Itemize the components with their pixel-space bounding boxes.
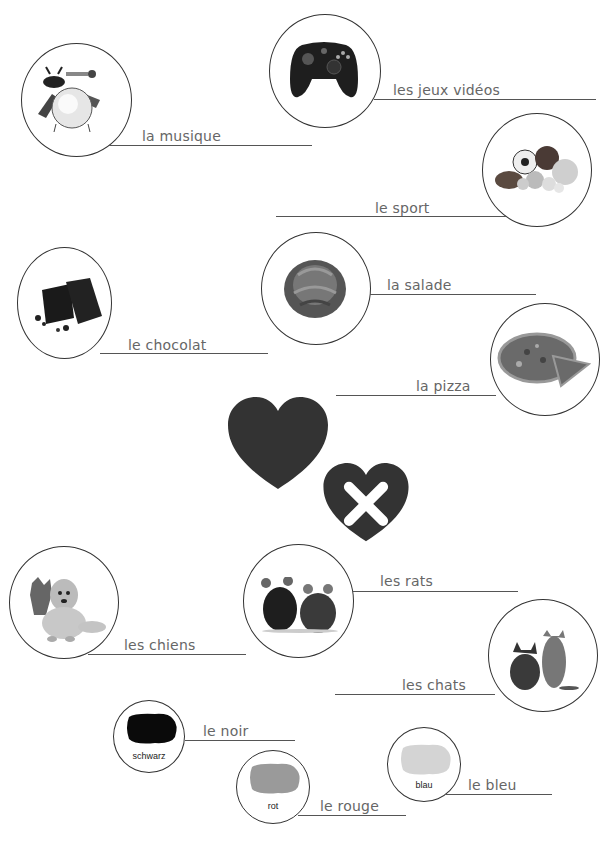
- answer-line-sport: [276, 216, 506, 217]
- picture-circle-chocolat: [17, 247, 112, 359]
- word-pizza: la pizza: [416, 378, 471, 394]
- dogs-icon: [26, 575, 106, 643]
- heart-crossed-icon: [323, 463, 409, 543]
- word-chats: les chats: [402, 677, 466, 693]
- word-rouge: le rouge: [320, 798, 379, 814]
- answer-line-pizza: [336, 395, 496, 396]
- answer-line-rats: [353, 591, 518, 592]
- picture-circle-jeux-videos: [269, 14, 381, 128]
- music-instruments-icon: [36, 64, 116, 134]
- answer-line-chocolat: [100, 353, 268, 354]
- answer-line-noir: [185, 740, 295, 741]
- color-label-rot: rot: [243, 801, 303, 811]
- word-chiens: les chiens: [124, 637, 196, 653]
- picture-circle-chiens: [9, 546, 119, 659]
- answer-line-jeux-videos: [374, 99, 596, 100]
- word-salade: la salade: [387, 277, 452, 293]
- lettuce-icon: [280, 255, 350, 321]
- color-circle-bleu: blau: [387, 727, 461, 802]
- red-swatch: [248, 763, 302, 795]
- word-noir: le noir: [203, 723, 248, 739]
- heart-icon: [228, 397, 328, 491]
- answer-line-rouge: [298, 815, 406, 816]
- color-circle-rouge: rot: [236, 750, 310, 824]
- word-musique: la musique: [142, 128, 221, 144]
- sports-balls-icon: [495, 146, 581, 196]
- answer-line-chiens: [88, 654, 246, 655]
- picture-circle-pizza: [490, 303, 600, 416]
- picture-circle-chats: [488, 599, 598, 712]
- color-circle-noir: schwarz: [113, 700, 185, 773]
- picture-circle-musique: [21, 43, 132, 157]
- color-label-blau: blau: [394, 780, 454, 790]
- answer-line-musique: [108, 145, 312, 146]
- word-bleu: le bleu: [468, 777, 517, 793]
- answer-line-bleu: [446, 794, 552, 795]
- chocolate-icon: [30, 278, 108, 334]
- picture-circle-sport: [482, 113, 592, 227]
- blue-swatch: [399, 744, 453, 776]
- answer-line-chats: [335, 694, 495, 695]
- picture-circle-salade: [261, 232, 371, 345]
- game-controller-icon: [288, 39, 360, 101]
- picture-circle-rats: [243, 544, 354, 658]
- word-sport: le sport: [375, 200, 430, 216]
- word-rats: les rats: [380, 573, 433, 589]
- rats-icon: [260, 577, 342, 633]
- color-label-schwarz: schwarz: [119, 751, 179, 761]
- word-jeux-videos: les jeux vidéos: [393, 82, 500, 98]
- word-chocolat: le chocolat: [128, 337, 207, 353]
- pizza-icon: [497, 330, 593, 392]
- cats-icon: [507, 630, 579, 692]
- answer-line-salade: [370, 294, 536, 295]
- black-swatch: [125, 713, 179, 745]
